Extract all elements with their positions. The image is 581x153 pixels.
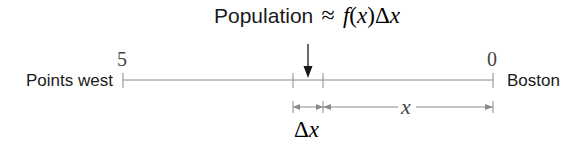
right-value-label: 0 <box>487 48 497 71</box>
down-arrow-icon <box>304 44 313 78</box>
formula-x: x <box>357 3 367 28</box>
population-word: Population <box>214 4 313 27</box>
approx-symbol: ≈ <box>322 2 335 28</box>
left-value-label: 5 <box>117 48 127 71</box>
x-distance-label: x <box>401 94 411 120</box>
population-formula: Population ≈ f(x)Δx <box>214 2 400 29</box>
formula-paren-close: ) <box>367 3 375 28</box>
points-west-label: Points west <box>26 71 113 91</box>
delta-symbol: Δ <box>294 117 309 142</box>
boston-label: Boston <box>507 71 560 91</box>
formula-paren-open: ( <box>349 3 357 28</box>
delta-var: x <box>309 117 319 142</box>
formula-dx: x <box>390 3 400 28</box>
delta-x-dimension <box>293 101 323 113</box>
formula-delta: Δ <box>375 3 390 28</box>
delta-x-label: Δx <box>294 117 319 143</box>
